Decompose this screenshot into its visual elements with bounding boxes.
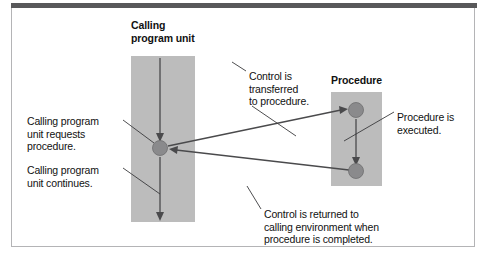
control-transfer-arrow <box>168 106 348 146</box>
figure-canvas: Calling program unit Procedure Calling p… <box>0 0 486 257</box>
call-site-node <box>153 141 168 156</box>
leader-line-continues <box>123 168 160 194</box>
leader-line-requests <box>123 120 154 143</box>
calling-flow-upper-arrow <box>156 58 164 142</box>
control-return-arrow <box>169 146 349 170</box>
diagram-vectors <box>0 0 486 257</box>
diagram-body: Calling program unit Procedure Calling p… <box>0 0 486 257</box>
leader-line-control-transferred-top <box>232 62 246 71</box>
procedure-exit-node <box>349 164 364 179</box>
calling-flow-lower-arrow <box>156 157 164 221</box>
procedure-entry-node <box>349 103 364 118</box>
leader-line-control-returned <box>247 186 261 209</box>
procedure-flow-arrow <box>352 119 360 166</box>
